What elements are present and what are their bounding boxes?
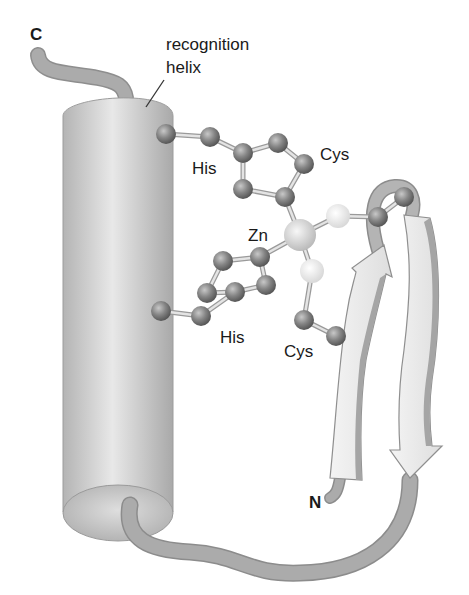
recognition-helix-label-line2: helix [166,58,201,77]
his-lower-label: His [220,328,245,347]
c-terminal-tail [38,55,126,98]
his-upper-label: His [192,159,217,178]
c-terminus-label: C [30,25,42,44]
cys-lower-label: Cys [284,342,313,361]
cys-upper-label: Cys [320,145,349,164]
beta-strand-up-arrow [330,245,392,480]
n-terminus-label: N [309,493,321,512]
beta-strand-down-arrow [390,215,442,478]
recognition-helix-label-line1: recognition [166,35,249,54]
zinc-label: Zn [248,226,268,245]
zinc-ion [284,219,316,251]
zinc-finger-diagram: C recognition helix His Cys Zn His Cys N [0,0,469,595]
n-terminal-tail [330,478,340,498]
